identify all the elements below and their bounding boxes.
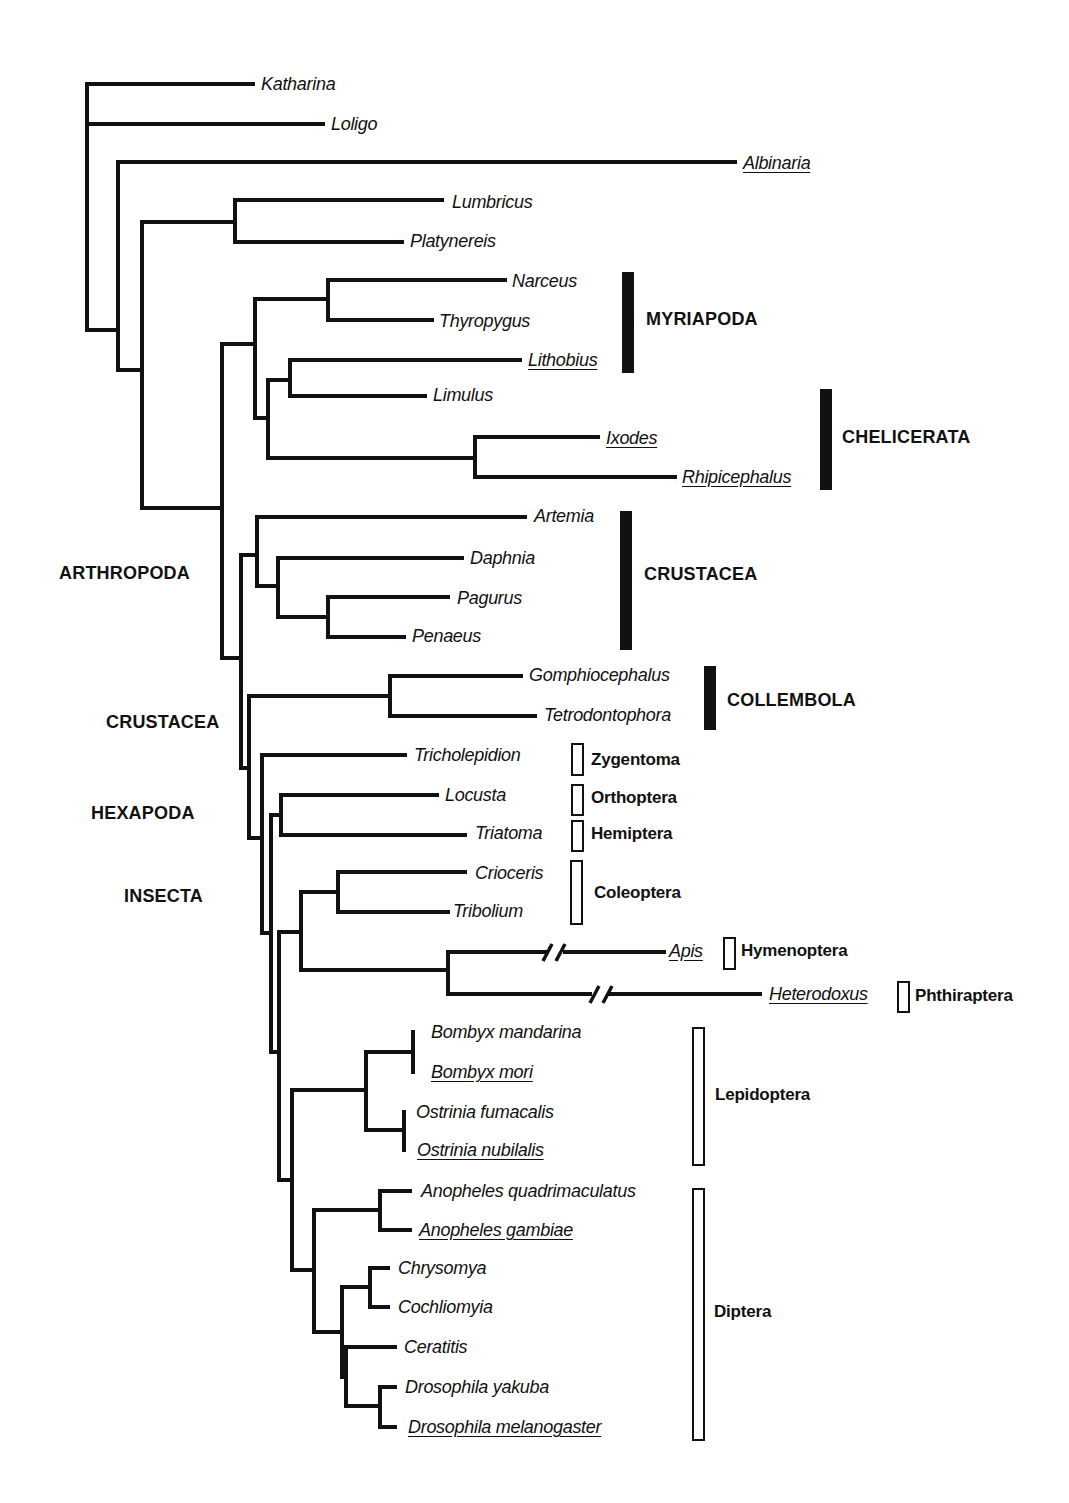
order-label-hemiptera: Hemiptera [591, 824, 672, 844]
group-label-myriapoda: MYRIAPODA [646, 309, 758, 329]
bracket-coleoptera [570, 860, 583, 925]
bracket-collembola [704, 666, 716, 730]
taxon-rhipicephalus: Rhipicephalus [682, 467, 791, 487]
taxon-ostrinia-nubilalis: Ostrinia nubilalis [417, 1140, 544, 1160]
bracket-hymenoptera [723, 937, 736, 970]
taxon-apis: Apis [669, 941, 703, 961]
taxon-lithobius: Lithobius [528, 350, 597, 370]
taxon-ostrinia-fumacalis: Ostrinia fumacalis [416, 1102, 554, 1122]
node-label-hexapoda: HEXAPODA [91, 803, 195, 823]
taxon-lumbricus: Lumbricus [452, 192, 532, 212]
taxon-pagurus: Pagurus [457, 588, 522, 608]
node-label-arthropoda: ARTHROPODA [59, 563, 190, 583]
bracket-diptera [692, 1188, 705, 1441]
taxon-narceus: Narceus [512, 271, 577, 291]
bracket-chelicerata [820, 389, 832, 490]
taxon-ceratitis: Ceratitis [404, 1337, 467, 1357]
bracket-zygentoma [571, 743, 584, 776]
order-label-hymenoptera: Hymenoptera [741, 941, 847, 961]
taxon-heterodoxus: Heterodoxus [769, 984, 868, 1004]
order-label-coleoptera: Coleoptera [594, 883, 681, 903]
order-label-orthoptera: Orthoptera [591, 788, 677, 808]
order-label-lepidoptera: Lepidoptera [715, 1085, 810, 1105]
taxon-tribolium: Tribolium [453, 901, 523, 921]
taxon-anopheles-quadrimaculatus: Anopheles quadrimaculatus [421, 1181, 636, 1201]
group-label-collembola: COLLEMBOLA [727, 690, 856, 710]
bracket-crustacea [620, 511, 632, 650]
taxon-thyropygus: Thyropygus [439, 311, 530, 331]
taxon-triatoma: Triatoma [475, 823, 542, 843]
group-label-chelicerata: CHELICERATA [842, 427, 971, 447]
bracket-orthoptera [571, 784, 584, 816]
taxon-cochliomyia: Cochliomyia [398, 1297, 493, 1317]
taxon-drosophila-melanogaster: Drosophila melanogaster [408, 1417, 601, 1437]
bracket-myriapoda [622, 272, 634, 373]
taxon-bombyx-mori: Bombyx mori [431, 1062, 533, 1082]
order-label-diptera: Diptera [714, 1302, 771, 1322]
order-label-zygentoma: Zygentoma [591, 750, 680, 770]
taxon-locusta: Locusta [445, 785, 506, 805]
taxon-loligo: Loligo [331, 114, 377, 134]
taxon-limulus: Limulus [433, 385, 493, 405]
taxon-chrysomya: Chrysomya [398, 1258, 486, 1278]
taxon-platynereis: Platynereis [410, 231, 496, 251]
taxon-penaeus: Penaeus [412, 626, 481, 646]
taxon-daphnia: Daphnia [470, 548, 535, 568]
taxon-ixodes: Ixodes [606, 428, 657, 448]
taxon-drosophila-yakuba: Drosophila yakuba [405, 1377, 549, 1397]
taxon-albinaria: Albinaria [743, 153, 810, 173]
taxon-bombyx-mandarina: Bombyx mandarina [431, 1022, 581, 1042]
phylogenetic-tree [0, 0, 1069, 1503]
order-label-phthiraptera: Phthiraptera [915, 986, 1013, 1006]
taxon-tetrodontophora: Tetrodontophora [544, 705, 671, 725]
bracket-lepidoptera [692, 1027, 705, 1166]
taxon-katharina: Katharina [261, 74, 335, 94]
bracket-hemiptera [571, 820, 584, 852]
taxon-tricholepidion: Tricholepidion [414, 745, 521, 765]
taxon-crioceris: Crioceris [475, 863, 543, 883]
node-label-insecta: INSECTA [124, 886, 203, 906]
bracket-phthiraptera [897, 981, 910, 1013]
node-label-crustacea: CRUSTACEA [106, 712, 219, 732]
group-label-crustacea: CRUSTACEA [644, 564, 757, 584]
taxon-artemia: Artemia [534, 506, 594, 526]
taxon-anopheles-gambiae: Anopheles gambiae [419, 1220, 573, 1240]
taxon-gomphiocephalus: Gomphiocephalus [529, 665, 670, 685]
